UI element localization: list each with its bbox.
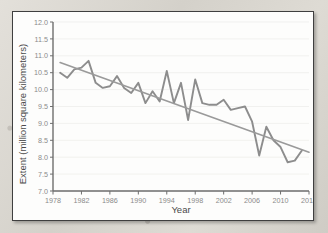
y-tick-label: 9.0 xyxy=(38,119,48,128)
x-tick-label: 2010 xyxy=(273,196,289,205)
chart-card: 7.07.58.08.59.09.510.010.511.011.512.0 1… xyxy=(12,11,314,221)
x-tick-label: 1990 xyxy=(130,196,146,205)
x-tick-label: 2006 xyxy=(244,196,260,205)
y-tick-label: 7.5 xyxy=(38,170,48,179)
y-axis-ticks: 7.07.58.08.59.09.510.010.511.011.512.0 xyxy=(34,18,53,196)
y-tick-label: 11.0 xyxy=(35,51,48,60)
y-tick-label: 9.5 xyxy=(38,102,48,111)
x-tick-label: 1982 xyxy=(73,196,89,205)
y-tick-label: 10.5 xyxy=(34,68,48,77)
y-tick-label: 8.0 xyxy=(38,153,48,162)
y-tick-label: 11.5 xyxy=(35,35,48,44)
x-tick-label: 1978 xyxy=(45,196,61,205)
x-tick-label: 2002 xyxy=(216,196,232,205)
y-axis-title: Extent (million square kilometers) xyxy=(17,44,28,184)
trend-line xyxy=(60,63,309,153)
x-tick-label: 2014 xyxy=(301,196,313,205)
sea-ice-extent-chart: 7.07.58.08.59.09.510.010.511.011.512.0 1… xyxy=(13,12,313,220)
x-axis-ticks: 1978198219861990199419982002200620102014 xyxy=(45,191,313,205)
y-tick-label: 10.0 xyxy=(34,85,48,94)
y-tick-label: 8.5 xyxy=(38,136,48,145)
x-axis-title: Year xyxy=(171,204,190,215)
y-tick-label: 12.0 xyxy=(34,18,48,27)
y-tick-label: 7.0 xyxy=(38,187,48,196)
x-tick-label: 1986 xyxy=(102,196,118,205)
